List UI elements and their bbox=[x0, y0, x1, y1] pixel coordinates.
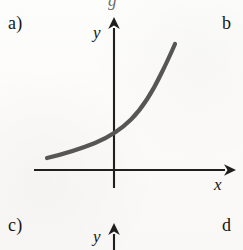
y-axis-arrowhead bbox=[108, 17, 120, 29]
y-axis-label-c: y bbox=[93, 228, 101, 245]
choice-c-graph[interactable]: y bbox=[0, 205, 243, 250]
y-axis-label: y bbox=[93, 24, 101, 41]
exponential-curve bbox=[47, 44, 175, 158]
graph-a-svg bbox=[0, 0, 243, 205]
x-axis-arrowhead bbox=[224, 164, 236, 176]
worksheet-page: g a) b c) d y x y bbox=[0, 0, 243, 250]
x-axis-label: x bbox=[214, 176, 222, 193]
y-axis-arrowhead-c bbox=[108, 223, 120, 235]
choice-a-graph[interactable]: y x bbox=[0, 0, 243, 205]
graph-c-svg bbox=[0, 205, 243, 250]
